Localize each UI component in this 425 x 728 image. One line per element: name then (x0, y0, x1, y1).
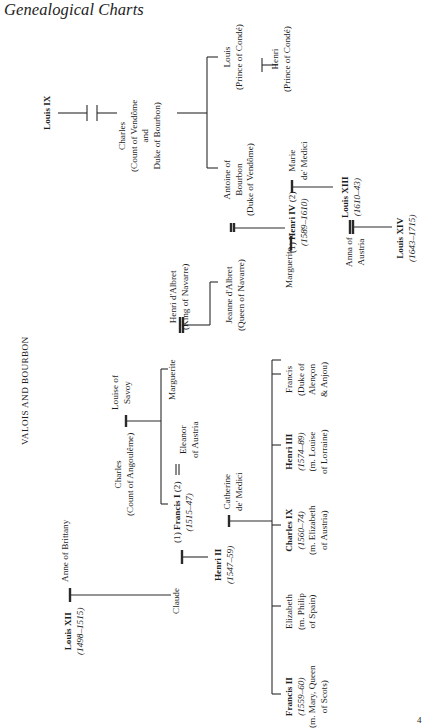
person-louis-ix: Louis IX (42, 96, 54, 130)
person-henri-iii: Henri III (1574–89) (m. Louise of Lorrai… (284, 429, 330, 474)
person-charles-ix: Charles IX (1560–74) (m. Elizabeth of Au… (284, 506, 330, 556)
person-jeanne-albret: Jeanne d'Albret (Queen of Navarre) (224, 259, 247, 331)
person-louise-savoy: Louise of Savoy (110, 375, 133, 410)
person-louis-xiii: Louis XIII (1610–43) (340, 176, 363, 218)
person-marguerite-angouleme: Marguerite (167, 359, 179, 400)
person-francis-ii: Francis II (1559–60) (m. Mary, Queen of … (284, 665, 330, 728)
person-henri-albret: Henri d'Albret (King of Navarre) (168, 264, 191, 330)
person-charles-angouleme: Charles (Count of Angoulême) (113, 433, 136, 516)
person-anna-austria: Anna of Austria (344, 237, 367, 267)
person-elizabeth: Elizabeth (m. Philip of Spain) (284, 593, 319, 630)
person-francis-alencon: Francis (Duke of Alençon & Anjou) (284, 362, 330, 397)
person-louis-xiv: Louis XIV (1643–1715) (395, 215, 418, 262)
person-catherine-medici: Catherine de' Medici (222, 472, 245, 511)
person-marie-medici: Marie de' Medici (287, 141, 310, 180)
person-antoine-bourbon: Antoine of Bourbon (Duke of Vendôme) (222, 143, 257, 216)
section-title: VALOIS AND BOURBON (20, 336, 30, 445)
person-marguerite-valois: Marguerite (284, 247, 296, 288)
person-francis-i: (1) Francis I (2) (1515–47) (172, 481, 195, 543)
person-claude: Claude (171, 588, 183, 614)
person-henri-iv: (1) Henri IV (2) (1589–1610) (287, 191, 310, 253)
person-henri-ii: Henri II (1547–59) (213, 546, 236, 584)
person-louis-conde: Louis (Prince of Condé) (222, 24, 245, 90)
person-henri-conde: Henri (Prince of Condé) (270, 26, 293, 92)
person-eleanor-austria: Eleanor of Austria (178, 422, 201, 459)
person-anne-brittany: Anne of Brittany (60, 520, 72, 582)
person-charles-vendome: Charles (Count of Vendôme and Duke of Bo… (117, 100, 163, 172)
page-number: 4 (417, 715, 422, 725)
person-louis-xii: Louis XII (1498–1515) (63, 608, 86, 655)
